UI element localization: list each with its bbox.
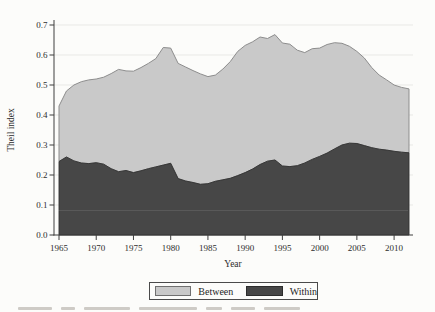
figure-page: 0.00.10.20.30.40.50.60.71965197019751980… bbox=[0, 0, 435, 312]
x-tick-label: 1980 bbox=[162, 243, 181, 253]
y-tick-label: 0.7 bbox=[36, 20, 48, 30]
y-tick-label: 0.4 bbox=[36, 110, 48, 120]
y-tick-label: 0.2 bbox=[36, 170, 47, 180]
scan-artifact-line bbox=[56, 210, 408, 211]
y-tick-label: 0.0 bbox=[36, 230, 48, 240]
x-tick-label: 1975 bbox=[124, 243, 143, 253]
x-tick-label: 2010 bbox=[385, 243, 404, 253]
x-tick-label: 2000 bbox=[311, 243, 330, 253]
clipped-caption-text-tops bbox=[18, 307, 338, 312]
area-series bbox=[59, 35, 409, 235]
legend: Between Within bbox=[149, 282, 318, 300]
theil-index-stacked-area-chart: 0.00.10.20.30.40.50.60.71965197019751980… bbox=[0, 0, 435, 280]
y-tick-label: 0.1 bbox=[36, 200, 47, 210]
x-tick-label: 1985 bbox=[199, 243, 218, 253]
y-tick-label: 0.6 bbox=[36, 50, 48, 60]
x-axis-title: Year bbox=[224, 259, 242, 269]
y-axis-title: Theil index bbox=[6, 108, 16, 152]
between-legend-label: Between bbox=[198, 286, 233, 297]
between-legend-swatch bbox=[155, 286, 191, 296]
x-tick-label: 1990 bbox=[236, 243, 255, 253]
x-tick-label: 1965 bbox=[50, 243, 69, 253]
y-tick-label: 0.5 bbox=[36, 80, 48, 90]
x-tick-label: 1970 bbox=[87, 243, 106, 253]
x-tick-label: 2005 bbox=[348, 243, 367, 253]
y-tick-label: 0.3 bbox=[36, 140, 48, 150]
x-tick-label: 1995 bbox=[273, 243, 292, 253]
within-legend-label: Within bbox=[290, 286, 317, 297]
within-legend-swatch bbox=[246, 286, 282, 296]
